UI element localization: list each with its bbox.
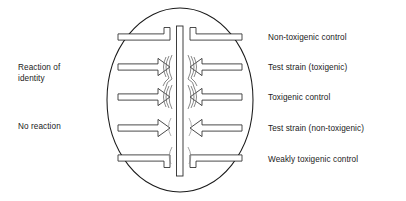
label-test-strain-non-toxigenic: Test strain (non-toxigenic)	[268, 124, 364, 135]
label-reaction-of-identity-line2: identity	[18, 74, 60, 85]
label-non-toxigenic-control: Non-toxigenic control	[268, 33, 347, 44]
elek-test-diagram	[0, 0, 406, 201]
label-reaction-of-identity-line1: Reaction of	[18, 63, 60, 74]
label-test-strain-toxigenic: Test strain (toxigenic)	[268, 63, 347, 74]
label-reaction-of-identity: Reaction of identity	[18, 63, 60, 84]
label-toxigenic-control: Toxigenic control	[268, 93, 330, 104]
label-weakly-toxigenic-control: Weakly toxigenic control	[268, 155, 358, 166]
label-no-reaction: No reaction	[18, 122, 61, 133]
antitoxin-strip	[177, 26, 184, 176]
